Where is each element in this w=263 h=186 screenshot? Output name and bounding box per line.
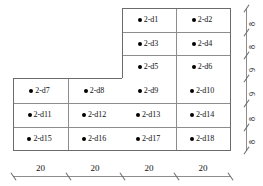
node-dot-icon xyxy=(190,89,194,93)
cell-label: 2-d10 xyxy=(196,87,214,95)
grid-cell: 2-d5 xyxy=(122,55,176,78)
cell-label: 2-d14 xyxy=(196,111,214,119)
cell-label: 2-d17 xyxy=(142,135,160,143)
grid-cell: 2-d17 xyxy=(122,127,176,150)
grid-cell: 2-d18 xyxy=(176,127,230,150)
dimension-label-horizontal: 20 xyxy=(176,164,230,173)
node-dot-icon xyxy=(192,18,196,22)
grid-cell: 2-d14 xyxy=(176,103,230,127)
grid-cell: 2-d9 xyxy=(122,78,176,103)
node-dot-icon xyxy=(136,137,140,141)
grid-line-vertical xyxy=(68,78,69,150)
grid-cell: 2-d6 xyxy=(176,55,230,78)
grid-line-horizontal xyxy=(13,103,230,104)
dimension-label-vertical: 8 xyxy=(249,132,257,144)
grid-cell: 2-d16 xyxy=(68,127,122,150)
dimension-label-horizontal: 20 xyxy=(122,164,176,173)
grid-cell: 2-d13 xyxy=(122,103,176,127)
grid-cell: 2-d12 xyxy=(68,103,122,127)
node-dot-icon xyxy=(82,137,86,141)
grid-cell: 2-d3 xyxy=(122,32,176,55)
cell-label: 2-d4 xyxy=(198,40,212,48)
cell-label: 2-d8 xyxy=(90,87,104,95)
cell-label: 2-d11 xyxy=(34,111,52,119)
dimension-label-vertical: 9 xyxy=(249,84,257,96)
cell-label: 2-d6 xyxy=(198,63,212,71)
cell-label: 2-d9 xyxy=(144,87,158,95)
node-dot-icon xyxy=(190,113,194,117)
node-dot-icon xyxy=(28,113,32,117)
cell-label: 2-d5 xyxy=(144,63,158,71)
dimension-label-horizontal: 20 xyxy=(68,164,122,173)
outline-left xyxy=(13,78,14,151)
node-dot-icon xyxy=(138,42,142,46)
grid-line-horizontal xyxy=(13,127,230,128)
dimension-label-vertical: 8 xyxy=(249,37,257,49)
node-dot-icon xyxy=(138,18,142,22)
node-dot-icon xyxy=(192,65,196,69)
grid-cell: 2-d1 xyxy=(122,8,176,32)
grid-cell: 2-d7 xyxy=(13,78,68,103)
dimension-tick xyxy=(244,147,250,155)
grid-cell: 2-d8 xyxy=(68,78,122,103)
cell-label: 2-d18 xyxy=(196,135,214,143)
node-dot-icon xyxy=(138,65,142,69)
outline-bottom xyxy=(13,150,231,151)
cell-label: 2-d15 xyxy=(33,135,51,143)
node-dot-icon xyxy=(82,113,86,117)
grid-cell: 2-d2 xyxy=(176,8,230,32)
cell-label: 2-d16 xyxy=(88,135,106,143)
outline-top xyxy=(122,8,231,9)
outline-right xyxy=(230,8,231,151)
cell-label: 2-d12 xyxy=(88,111,106,119)
grid-line-vertical xyxy=(176,8,177,150)
cell-label: 2-d1 xyxy=(144,16,158,24)
node-dot-icon xyxy=(84,89,88,93)
grid-cell: 2-d4 xyxy=(176,32,230,55)
dimension-label-vertical: 9 xyxy=(249,60,257,72)
node-dot-icon xyxy=(190,137,194,141)
outline-step-horizontal xyxy=(13,78,122,79)
cell-label: 2-d2 xyxy=(198,16,212,24)
grid-cell: 2-d11 xyxy=(13,103,68,127)
node-dot-icon xyxy=(29,89,33,93)
node-dot-icon xyxy=(27,137,31,141)
dimension-label-vertical: 8 xyxy=(249,14,257,26)
dimension-label-horizontal: 20 xyxy=(13,164,68,173)
outline-step-vertical xyxy=(122,8,123,78)
cell-label: 2-d7 xyxy=(35,87,49,95)
cell-label: 2-d3 xyxy=(144,40,158,48)
node-dot-icon xyxy=(192,42,196,46)
stepped-grid-figure: 2-d1 2-d2 2-d3 2-d4 2-d5 2-d6 xyxy=(0,0,263,186)
cell-label: 2-d13 xyxy=(142,111,160,119)
dimension-label-vertical: 8 xyxy=(249,109,257,121)
grid-cell: 2-d10 xyxy=(176,78,230,103)
grid-cell: 2-d15 xyxy=(13,127,68,150)
node-dot-icon xyxy=(136,113,140,117)
node-dot-icon xyxy=(138,89,142,93)
